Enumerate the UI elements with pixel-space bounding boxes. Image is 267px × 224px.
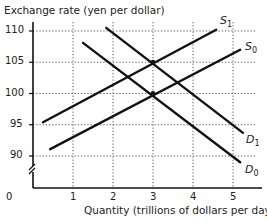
y-tick-label: 100 [5, 87, 24, 98]
x-tick-label: 4 [190, 191, 196, 202]
curve-label-s1: S1 [220, 14, 232, 29]
gridlines [33, 22, 257, 188]
curve-s0 [50, 50, 240, 149]
x-tick-label: 3 [150, 191, 156, 202]
y-tick-label: 95 [10, 118, 23, 129]
curve-d1 [106, 28, 243, 133]
curve-label-d0: D0 [245, 163, 259, 178]
x-tick-label: 0 [6, 191, 12, 202]
plot-area [0, 0, 267, 224]
y-tick-label: 110 [5, 24, 24, 35]
curve-label-s0: S0 [245, 40, 257, 55]
y-tick-label: 90 [10, 149, 23, 160]
y-tick-label: 105 [5, 55, 24, 66]
axes [29, 22, 262, 188]
curve-label-d1: D1 [246, 133, 260, 148]
x-tick-label: 5 [230, 191, 236, 202]
equilibrium-point [151, 91, 156, 96]
x-tick-label: 1 [70, 191, 76, 202]
equilibrium-point [151, 60, 156, 65]
x-axis-title: Quantity (trillions of dollars per day) [84, 204, 267, 216]
x-tick-label: 2 [110, 191, 116, 202]
